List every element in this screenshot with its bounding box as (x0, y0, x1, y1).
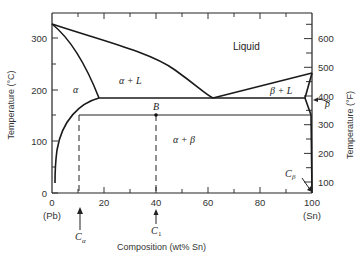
y-left-axis-title: Temperature (°C) (6, 70, 16, 139)
x-tick-40: 40 (151, 197, 162, 208)
x-tick-20: 20 (99, 197, 110, 208)
alpha-liquid-region-label: α + L (119, 75, 142, 86)
phase-boundaries (52, 24, 312, 193)
point-b-label: B (153, 101, 159, 112)
svg-text:1: 1 (158, 230, 162, 238)
x-tick-80: 80 (255, 197, 266, 208)
svg-text:α: α (82, 237, 86, 245)
y-tick-100: 100 (31, 136, 47, 147)
x-tick-60: 60 (203, 197, 214, 208)
y-right-tick-100: 100 (318, 177, 334, 188)
x-axis-title: Composition (wt% Sn) (117, 242, 206, 252)
c1-label: C 1 (151, 225, 162, 238)
y-right-tick-200: 200 (318, 148, 334, 159)
solvus-beta (305, 98, 312, 193)
y-right-tick-600: 600 (318, 33, 334, 44)
alpha-region-label: α (73, 84, 79, 95)
liquidus-right (213, 73, 312, 98)
plot-frame (52, 13, 312, 193)
annotation-arrows (77, 98, 329, 231)
svg-text:C: C (151, 225, 158, 236)
beta-liquid-region-label: β + L (269, 85, 293, 96)
solidus-beta (305, 73, 312, 98)
x-tick-100: 100 (304, 197, 320, 208)
svg-text:β: β (291, 173, 296, 181)
svg-text:C: C (75, 231, 82, 242)
y-tick-0: 0 (42, 188, 47, 199)
top-axis-ticks (78, 13, 286, 19)
svg-text:C: C (285, 168, 292, 179)
y-right-tick-500: 500 (318, 62, 334, 73)
solvus-alpha (55, 98, 99, 183)
liquid-region-label: Liquid (233, 41, 260, 52)
alpha-beta-region-label: α + β (173, 134, 195, 145)
point-b-marker (154, 113, 158, 117)
pb-sn-phase-diagram: 0 100 200 300 100 200 300 400 500 600 0 … (0, 0, 362, 256)
c-beta-label: C β (285, 168, 296, 181)
left-tick-labels: 0 100 200 300 (31, 33, 47, 199)
y-tick-300: 300 (31, 33, 47, 44)
y-right-axis-title: Temperature (°F) (345, 91, 355, 159)
sn-label: (Sn) (303, 210, 321, 221)
pb-label: (Pb) (43, 210, 61, 221)
bottom-tick-labels: 0 20 40 60 80 100 (Pb) (Sn) (43, 197, 321, 221)
c-alpha-label: C α (75, 231, 86, 245)
x-tick-0: 0 (49, 197, 54, 208)
bottom-axis-ticks (78, 187, 286, 193)
y-right-tick-300: 300 (318, 119, 334, 130)
beta-region-label: β (324, 98, 330, 109)
right-tick-labels: 100 200 300 400 500 600 (318, 33, 334, 188)
y-tick-200: 200 (31, 85, 47, 96)
